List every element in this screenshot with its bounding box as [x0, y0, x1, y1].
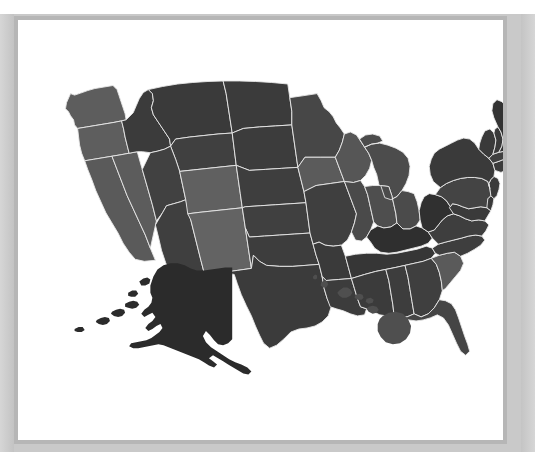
us-choropleth-map[interactable]: Washington Oregon California Nevada Idah…	[18, 20, 503, 440]
figure-mat-left-edge	[0, 14, 14, 452]
states-layer: Washington Oregon California Nevada Idah…	[65, 81, 503, 355]
state-SD[interactable]: South Dakota	[232, 125, 298, 170]
map-figure-frame: Washington Oregon California Nevada Idah…	[14, 16, 507, 444]
state-CO[interactable]: Colorado	[180, 165, 243, 214]
state-AK[interactable]: Alaska	[75, 263, 252, 374]
figure-mat-right-edge	[521, 14, 535, 452]
state-NE[interactable]: Nebraska	[236, 165, 306, 207]
screenshot-viewport: Washington Oregon California Nevada Idah…	[0, 0, 535, 465]
state-WY[interactable]: Wyoming	[171, 133, 237, 171]
state-KS[interactable]: Kansas	[242, 203, 310, 237]
map-canvas[interactable]: Washington Oregon California Nevada Idah…	[18, 20, 503, 440]
